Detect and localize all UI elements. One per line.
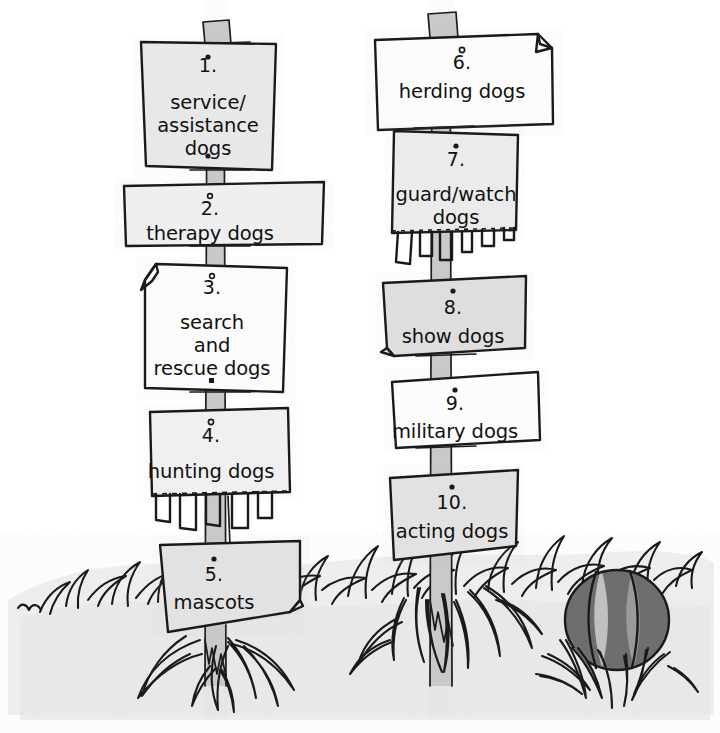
grass-base-left [138, 636, 294, 712]
grass-base-right [350, 586, 542, 674]
foreground-layer [0, 0, 720, 733]
illustration-canvas: 1. service/ assistance dogs 2. therapy d… [0, 0, 720, 733]
